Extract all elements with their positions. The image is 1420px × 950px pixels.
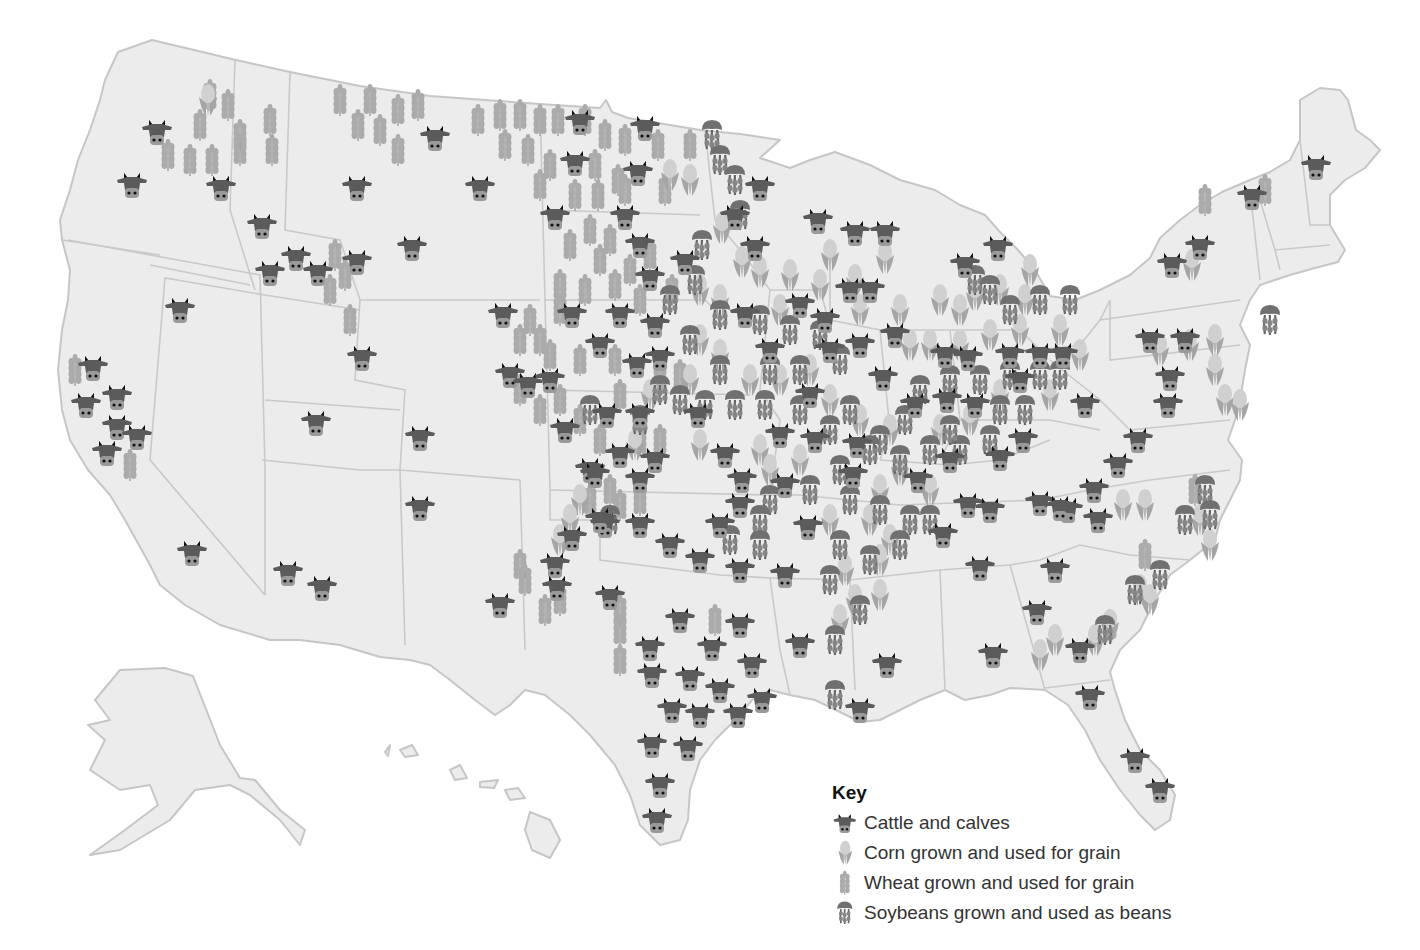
soybeans-icon <box>832 900 858 926</box>
corn-icon <box>832 840 858 866</box>
key-title: Key <box>832 782 1171 804</box>
hawaii-4 <box>480 780 498 788</box>
us-map <box>0 0 1420 950</box>
key-item-corn: Corn grown and used for grain <box>832 838 1171 868</box>
hawaii-big-island <box>525 812 560 858</box>
wheat-icon <box>832 870 858 896</box>
key-item-label: Corn grown and used for grain <box>864 842 1121 864</box>
hawaii-3 <box>450 765 467 780</box>
alaska <box>88 668 305 855</box>
key-item-cattle: Cattle and calves <box>832 808 1171 838</box>
hawaii-2 <box>400 745 418 757</box>
key-item-label: Wheat grown and used for grain <box>864 872 1134 894</box>
contiguous-us-landmass <box>58 40 1380 845</box>
hawaii-1 <box>385 745 390 756</box>
key-item-label: Cattle and calves <box>864 812 1010 834</box>
key-item-wheat: Wheat grown and used for grain <box>832 868 1171 898</box>
key-item-label: Soybeans grown and used as beans <box>864 902 1171 924</box>
hawaii-5 <box>505 788 525 800</box>
cattle-icon <box>832 810 858 836</box>
key-item-soybeans: Soybeans grown and used as beans <box>832 898 1171 928</box>
map-key: Key Cattle and calves Corn grown and use… <box>832 782 1171 928</box>
